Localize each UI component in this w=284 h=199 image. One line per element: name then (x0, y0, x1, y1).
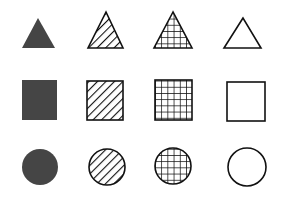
square-grid-fill-icon (155, 80, 192, 120)
circle-grid-fill-icon (155, 148, 191, 184)
square-solid-fill-icon (22, 80, 57, 120)
circle-solid-fill-icon (22, 149, 58, 185)
shape-fill-diagram (0, 0, 284, 199)
square-diagonal-fill-icon (87, 81, 123, 120)
circle-diagonal-fill-icon (89, 149, 125, 185)
